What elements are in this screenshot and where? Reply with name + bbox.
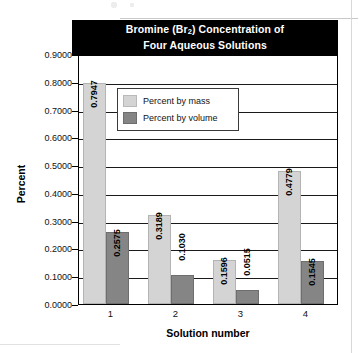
legend-swatch-mass-icon [123,95,137,107]
bar-value-label: 0.1596 [219,254,229,288]
x-tick-label: 2 [161,308,191,319]
x-tick-label: 4 [291,308,321,319]
y-tick-label: 0.8000 [16,78,72,88]
y-tick-label: 0.9000 [16,50,72,60]
y-tick-label: 0.6000 [16,133,72,143]
bar-volume-3 [236,290,259,304]
x-tick-label: 3 [226,308,256,319]
chart-title-text-post: ) Concentration of [192,23,284,35]
y-tick-label: 0.0000 [16,300,72,310]
y-tick-mark [72,305,78,306]
chart-legend: Percent by mass Percent by volume [117,88,239,131]
bar-value-label: 0.3189 [154,209,164,243]
chart-title-text-pre: Bromine (Br [126,23,188,35]
legend-label-mass: Percent by mass [143,96,210,106]
bar-value-label: 0.0515 [242,245,252,279]
bar-mass-1 [83,83,106,304]
x-axis-label: Solution number [78,327,338,339]
y-tick-label: 0.7000 [16,106,72,116]
y-axis-label: Percent [15,149,27,219]
chart-title-line-1: Bromine (Br2) Concentration of [126,23,284,38]
y-tick-label: 0.1000 [16,272,72,282]
bar-volume-2 [171,275,194,304]
legend-item-volume: Percent by volume [123,110,233,125]
bar-chart: Bromine (Br2) Concentration of Four Aque… [0,0,359,353]
bar-value-label: 0.1545 [307,255,317,289]
chart-title: Bromine (Br2) Concentration of Four Aque… [72,20,338,55]
x-tick-label: 1 [96,308,126,319]
legend-label-volume: Percent by volume [143,113,218,123]
legend-item-mass: Percent by mass [123,94,233,109]
chart-title-line-2: Four Aqueous Solutions [143,39,267,52]
bar-value-label: 0.4779 [284,165,294,199]
y-tick-label: 0.2000 [16,244,72,254]
gridline [79,167,337,168]
bar-value-label: 0.7947 [89,77,99,111]
bar-value-label: 0.2575 [112,226,122,260]
legend-swatch-volume-icon [123,112,137,124]
gridline [79,139,337,140]
bar-value-label: 0.1030 [177,230,187,264]
gridline [79,84,337,85]
